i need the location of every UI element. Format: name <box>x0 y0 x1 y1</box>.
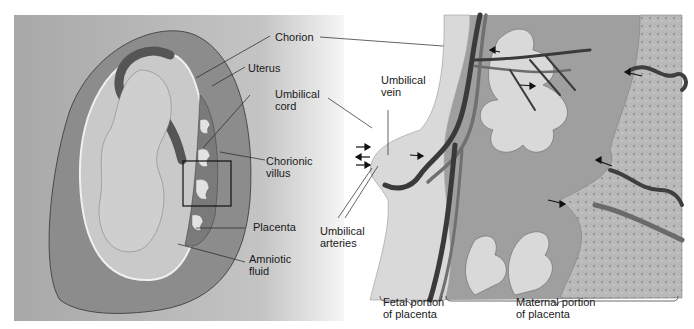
label-umbilical-vein-line1: Umbilical <box>381 74 426 86</box>
label-umbilical-arteries-line1: Umbilical <box>320 225 365 237</box>
label-placenta: Placenta <box>253 221 296 233</box>
label-umbilical-arteries-line2: arteries <box>320 237 365 249</box>
label-umbilical-arteries: Umbilical arteries <box>320 225 365 249</box>
label-umbilical-vein-line2: vein <box>381 86 426 98</box>
label-chorionic-villus-line2: villus <box>266 167 312 179</box>
placenta-illustration <box>0 0 694 329</box>
label-chorionic-villus-line1: Chorionic <box>266 155 312 167</box>
label-maternal-portion-line2: of placenta <box>516 308 596 320</box>
label-maternal-portion-line1: Maternal portion <box>516 296 596 308</box>
label-fetal-portion-line1: Fetal portion <box>383 296 444 308</box>
label-chorionic-villus: Chorionic villus <box>266 155 312 179</box>
label-umbilical-cord-line1: Umbilical <box>275 88 320 100</box>
label-maternal-portion: Maternal portion of placenta <box>516 296 596 320</box>
label-uterus: Uterus <box>248 62 280 74</box>
label-amniotic-fluid: Amniotic fluid <box>249 253 291 277</box>
label-amniotic-fluid-line1: Amniotic <box>249 253 291 265</box>
label-fetal-portion: Fetal portion of placenta <box>383 296 444 320</box>
label-amniotic-fluid-line2: fluid <box>249 265 291 277</box>
label-chorion: Chorion <box>275 31 314 43</box>
label-umbilical-cord-line2: cord <box>275 100 320 112</box>
label-umbilical-vein: Umbilical vein <box>381 74 426 98</box>
label-fetal-portion-line2: of placenta <box>383 308 444 320</box>
label-umbilical-cord: Umbilical cord <box>275 88 320 112</box>
